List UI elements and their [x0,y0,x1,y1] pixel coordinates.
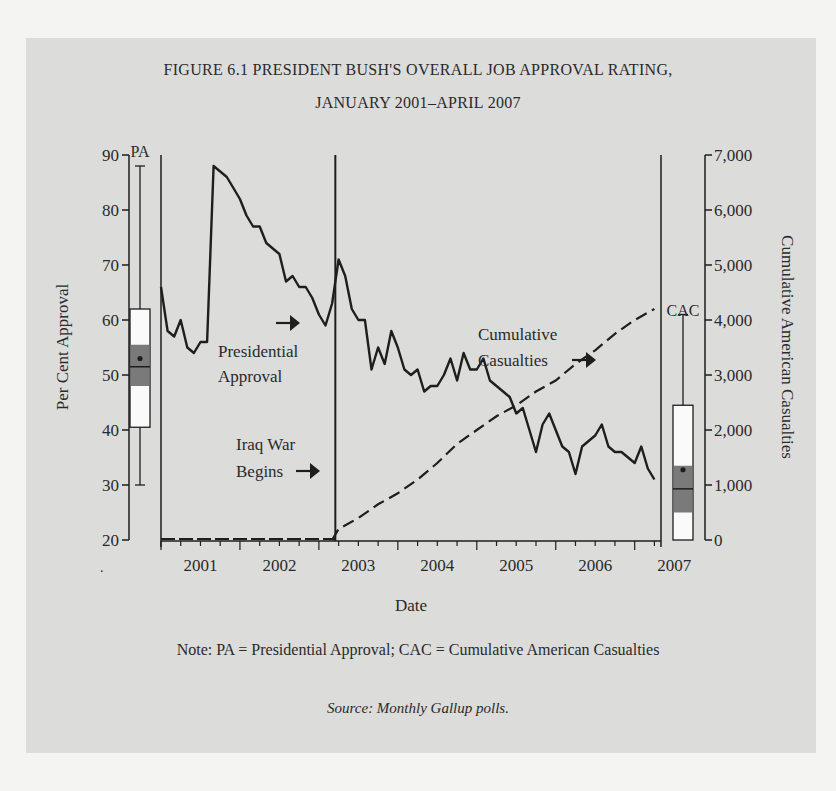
left-axis-tick-label: 20 [102,531,119,550]
left-axis-tick-label: 60 [102,311,119,330]
right-axis-tick-label: 7,000 [714,146,752,165]
cumulative-casualties-arrow-icon-head [586,352,596,368]
stray-dot: . [100,560,104,575]
left-axis-tick-label: 40 [102,421,119,440]
left-axis-tick-label: 80 [102,201,119,220]
right-axis-tick-label: 0 [714,531,723,550]
x-axis-tick-label: 2007 [657,556,692,575]
annotation-approval: Approval [218,367,282,386]
x-axis-tick-label: 2005 [499,556,533,575]
right-axis-tick-label: 4,000 [714,311,752,330]
annotation-presidential: Presidential [218,342,299,361]
chart: 2030405060708090Per Cent Approval01,0002… [0,0,836,791]
pa-box-mean-dot [137,356,142,361]
annotation-iraq: Iraq War [236,435,296,454]
pa-box-label: PA [131,143,150,160]
cac-box-mean-dot [680,467,685,472]
left-axis-tick-label: 70 [102,256,119,275]
right-axis-tick-label: 2,000 [714,421,752,440]
right-axis-tick-label: 3,000 [714,366,752,385]
left-axis-tick-label: 50 [102,366,119,385]
right-axis-tick-label: 5,000 [714,256,752,275]
iraq-war-arrow-icon-head [310,463,320,479]
x-axis-tick-label: 2006 [578,556,612,575]
approval-line [161,166,654,480]
x-axis-tick-label: 2001 [183,556,217,575]
figure-source: Source: Monthly Gallup polls. [0,700,836,717]
right-axis-tick-label: 6,000 [714,201,752,220]
right-axis-tick-label: 1,000 [714,476,752,495]
left-axis-tick-label: 90 [102,146,119,165]
annotation-cumulative: Cumulative [478,325,557,344]
x-axis-tick-label: 2002 [262,556,296,575]
cac-box-label: CAC [667,302,700,319]
annotation-begins: Begins [236,462,283,481]
left-axis-title: Per Cent Approval [53,283,72,410]
figure-note: Note: PA = Presidential Approval; CAC = … [0,641,836,659]
left-axis-tick-label: 30 [102,476,119,495]
annotation-casualties: Casualties [478,351,548,370]
x-axis-title: Date [395,596,427,615]
right-axis-title: Cumulative American Casualties [778,235,797,459]
x-axis-tick-label: 2003 [341,556,375,575]
presidential-approval-arrow-icon-head [290,315,300,331]
x-axis-tick-label: 2004 [420,556,455,575]
pa-box-ci-band [131,345,149,386]
